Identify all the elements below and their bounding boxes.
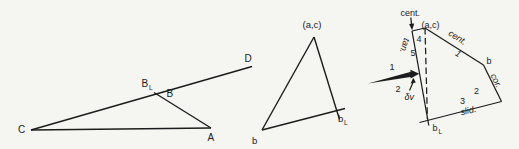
delta-v-arrowhead-icon (411, 78, 416, 84)
label-number-4: 4 (417, 34, 422, 44)
line-C-A (31, 128, 211, 130)
label-ac: (a,c) (303, 19, 322, 30)
label-BL: B (142, 78, 149, 89)
label-bL: b (433, 123, 438, 133)
label-b: b (252, 135, 257, 146)
label-cent-pointer: cent. (401, 8, 421, 18)
label-ac: (a,c) (422, 20, 440, 30)
label-bL-subscript: L (344, 119, 348, 126)
delta-v-leader-line (410, 83, 414, 91)
label-arrow-number-1: 1 (390, 62, 395, 72)
label-b: b (487, 56, 492, 66)
line-ac-bL (314, 37, 340, 120)
line-ac-b (262, 37, 314, 130)
label-number-5: 5 (411, 48, 416, 58)
label-bL-subscript: L (439, 128, 443, 135)
scanned-figure: C A D B L B (a,c) b b L cent. (0, 0, 519, 149)
right-figure: cent. (a,c) b b L tan. cent. cor. slid. … (368, 8, 504, 135)
line-A-BL (154, 93, 211, 129)
label-A: A (208, 132, 215, 143)
line-b-bL (262, 109, 345, 131)
label-D: D (245, 53, 252, 64)
label-number-1: 1 (453, 48, 463, 59)
label-arrow-number-2: 2 (396, 84, 401, 94)
velocity-arrow-shaft (368, 72, 412, 84)
middle-figure: (a,c) b b L (252, 19, 348, 146)
label-edge-cor: cor. (488, 72, 504, 90)
label-edge-slid: slid. (459, 104, 477, 117)
label-number-3: 3 (460, 96, 465, 106)
left-figure: C A D B L B (18, 53, 252, 143)
cent-pointer-arrowhead-icon (409, 24, 414, 31)
label-B: B (167, 88, 174, 99)
velocity-arrowhead-icon (411, 70, 420, 79)
figure-svg: C A D B L B (a,c) b b L cent. (0, 0, 519, 149)
label-bL: b (338, 113, 343, 124)
label-delta-v: δv (405, 92, 415, 102)
line-C-D (31, 67, 252, 131)
label-number-2: 2 (474, 86, 479, 96)
label-C: C (18, 124, 25, 135)
label-BL-subscript: L (149, 84, 153, 91)
